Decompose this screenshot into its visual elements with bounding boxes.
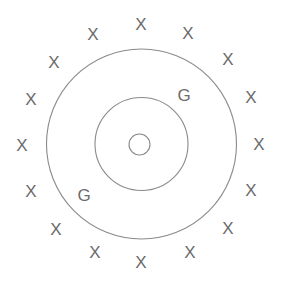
- concentric-circles-diagram: XXXXXXXXXXXXXXXX GG: [0, 0, 283, 285]
- x-mark: X: [222, 219, 233, 238]
- x-mark: X: [89, 243, 100, 262]
- x-mark: X: [87, 25, 98, 44]
- g-label-lower-left: G: [77, 186, 90, 205]
- x-mark: X: [184, 243, 195, 262]
- x-mark: X: [253, 135, 264, 154]
- diagram-background: [0, 0, 283, 285]
- x-mark: X: [182, 24, 193, 43]
- x-mark: X: [245, 88, 256, 107]
- x-mark: X: [25, 182, 36, 201]
- x-mark: X: [245, 181, 256, 200]
- x-mark: X: [16, 136, 27, 155]
- x-mark: X: [25, 90, 36, 109]
- x-mark: X: [50, 220, 61, 239]
- g-label-upper-right: G: [177, 86, 190, 105]
- x-mark: X: [222, 50, 233, 69]
- diagram-canvas: XXXXXXXXXXXXXXXX GG: [0, 0, 283, 285]
- x-mark: X: [48, 53, 59, 72]
- x-mark: X: [135, 253, 146, 272]
- x-mark: X: [135, 15, 146, 34]
